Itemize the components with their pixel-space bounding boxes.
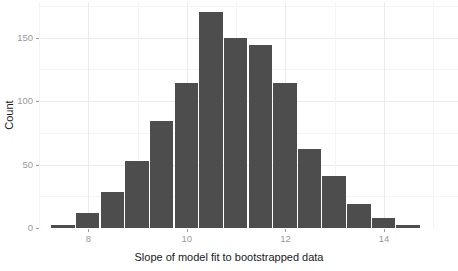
histogram-bar bbox=[347, 204, 370, 228]
histogram-chart: Count 050100150 8101214 Slope of model f… bbox=[0, 0, 458, 271]
histogram-bar bbox=[51, 225, 74, 228]
y-tick-mark bbox=[36, 38, 39, 39]
y-tick-label: 0 bbox=[0, 223, 33, 233]
histogram-bar bbox=[224, 38, 247, 228]
gridline-horizontal bbox=[39, 38, 458, 39]
histogram-bar bbox=[396, 225, 419, 228]
x-tick-label: 8 bbox=[68, 234, 108, 244]
y-tick-mark bbox=[36, 228, 39, 229]
gridline-vertical bbox=[88, 2, 89, 228]
histogram-bar bbox=[101, 192, 124, 228]
gridline-vertical-minor bbox=[433, 2, 434, 228]
y-tick-mark bbox=[36, 165, 39, 166]
histogram-bar bbox=[125, 161, 148, 228]
gridline-vertical-minor bbox=[39, 2, 40, 228]
x-tick-label: 14 bbox=[364, 234, 404, 244]
histogram-bar bbox=[175, 83, 198, 228]
histogram-bar bbox=[322, 176, 345, 228]
y-tick-label: 150 bbox=[0, 33, 33, 43]
histogram-bar bbox=[76, 213, 99, 228]
gridline-horizontal-minor bbox=[39, 6, 458, 7]
x-tick-mark bbox=[285, 229, 286, 232]
histogram-bar bbox=[273, 83, 296, 228]
histogram-bar bbox=[199, 12, 222, 228]
histogram-bar bbox=[249, 45, 272, 228]
x-tick-label: 10 bbox=[167, 234, 207, 244]
x-tick-label: 12 bbox=[265, 234, 305, 244]
y-tick-label: 100 bbox=[0, 96, 33, 106]
y-tick-mark bbox=[36, 101, 39, 102]
x-tick-mark bbox=[88, 229, 89, 232]
x-tick-mark bbox=[384, 229, 385, 232]
x-axis-title: Slope of model fit to bootstrapped data bbox=[0, 250, 458, 264]
histogram-bar bbox=[150, 121, 173, 228]
histogram-bar bbox=[372, 218, 395, 228]
plot-panel bbox=[39, 2, 458, 228]
x-tick-mark bbox=[187, 229, 188, 232]
gridline-vertical bbox=[384, 2, 385, 228]
y-tick-label: 50 bbox=[0, 160, 33, 170]
histogram-bar bbox=[298, 149, 321, 228]
